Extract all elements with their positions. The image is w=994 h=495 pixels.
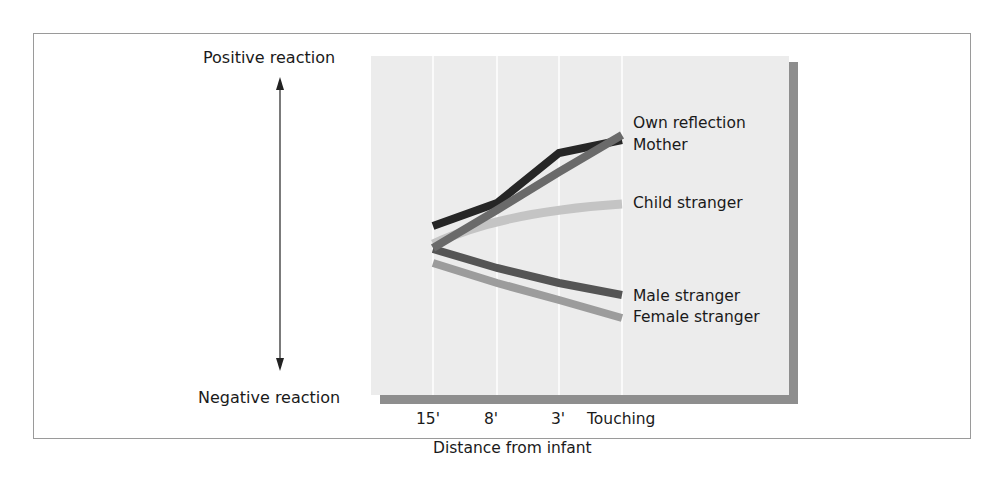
label-male-stranger: Male stranger bbox=[633, 289, 740, 305]
label-female-stranger: Female stranger bbox=[633, 310, 760, 326]
x-tick-15ft: 15' bbox=[416, 412, 440, 428]
x-tick-touching: Touching bbox=[587, 412, 655, 428]
x-tick-3ft: 3' bbox=[551, 412, 565, 428]
label-mother: Mother bbox=[633, 138, 688, 154]
label-own-reflection: Own reflection bbox=[633, 116, 746, 132]
label-child-stranger: Child stranger bbox=[633, 196, 743, 212]
line-own-reflection bbox=[433, 135, 622, 248]
x-tick-8ft: 8' bbox=[484, 412, 498, 428]
line-child-stranger bbox=[433, 204, 622, 244]
x-axis-title: Distance from infant bbox=[433, 441, 592, 457]
double-arrow-icon bbox=[276, 77, 284, 371]
